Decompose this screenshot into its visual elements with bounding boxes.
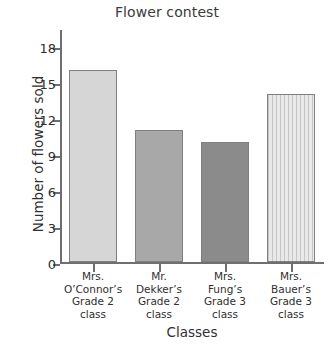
- bar: [135, 130, 183, 262]
- x-category-label-line: Dekker’s: [126, 283, 192, 296]
- x-category-label-line: Fung’s: [192, 283, 258, 296]
- x-category-label: Mrs.O’Connor’sGrade 2class: [60, 270, 126, 320]
- y-tick-label: 15: [39, 77, 56, 92]
- x-category-label-line: Grade 3: [258, 295, 324, 308]
- y-tick-label: 6: [48, 185, 56, 200]
- bar: [267, 94, 315, 262]
- x-category-label-line: Grade 3: [192, 295, 258, 308]
- x-category-label-line: Grade 2: [126, 295, 192, 308]
- x-category-label-line: Mrs.: [258, 270, 324, 283]
- x-category-label-line: Mr.: [126, 270, 192, 283]
- x-axis-label: Classes: [60, 324, 324, 340]
- x-category-label: Mrs.Fung’sGrade 3class: [192, 270, 258, 320]
- y-tick-label: 9: [48, 149, 56, 164]
- x-category-label: Mr.Dekker’sGrade 2class: [126, 270, 192, 320]
- x-category-label-line: class: [126, 308, 192, 321]
- x-category-label-line: class: [192, 308, 258, 321]
- bar: [69, 70, 117, 262]
- x-category-label: Mrs.Bauer’sGrade 3class: [258, 270, 324, 320]
- x-category-label-line: O’Connor’s: [60, 283, 126, 296]
- y-tick-label: 12: [39, 113, 56, 128]
- y-axis-label: Number of flowers sold: [30, 39, 46, 269]
- chart-title: Flower contest: [0, 4, 334, 20]
- x-category-label-line: class: [258, 308, 324, 321]
- bar: [201, 142, 249, 262]
- x-axis-line: [60, 262, 324, 264]
- y-axis-line: [60, 30, 62, 264]
- y-tick-label: 0: [48, 257, 56, 272]
- bar-chart: Flower contest Number of flowers sold 03…: [0, 0, 334, 346]
- x-category-label-line: Mrs.: [60, 270, 126, 283]
- y-tick-label: 18: [39, 41, 56, 56]
- y-tick-label: 3: [48, 221, 56, 236]
- plot-area: 0369121518: [60, 30, 324, 264]
- x-axis-category-labels: Mrs.O’Connor’sGrade 2classMr.Dekker’sGra…: [60, 270, 324, 320]
- x-category-label-line: Grade 2: [60, 295, 126, 308]
- x-category-label-line: Mrs.: [192, 270, 258, 283]
- x-category-label-line: class: [60, 308, 126, 321]
- x-category-label-line: Bauer’s: [258, 283, 324, 296]
